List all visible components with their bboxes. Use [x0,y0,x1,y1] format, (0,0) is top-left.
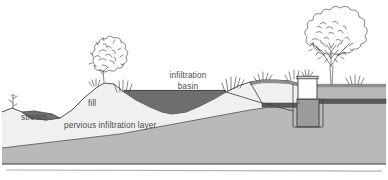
large-tree [305,6,368,84]
structure-riser [298,78,317,99]
grass-tuft-terrace-right [346,75,364,84]
inlet-structure [297,76,319,127]
label-pervious-infiltration-layer: pervious infiltration layer [64,121,156,132]
label-infiltration-basin-line1: infiltration [170,71,207,80]
structure-chamber [297,99,319,127]
shrub [89,36,128,82]
label-fill: fill [88,99,96,110]
grass-tuft-left-mound [89,79,100,86]
footer-rule [0,168,388,174]
label-infiltration-basin-line2: basin [178,82,198,91]
label-infiltration-basin: infiltration basin [150,71,226,92]
streamside-plant [9,95,17,109]
structure-lid [297,76,318,79]
label-stream: stream [21,113,47,124]
shrub-small-structure [302,70,313,76]
grass-tuft-structure-left [285,70,299,81]
figure-canvas: stream fill pervious infiltration layer … [0,0,388,180]
